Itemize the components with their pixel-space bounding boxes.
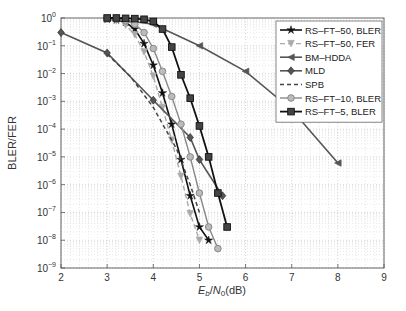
y-tick-label: 100 [41, 11, 56, 24]
x-tick-label: 7 [289, 272, 295, 283]
y-tick-label: 10−1 [37, 39, 56, 52]
x-tick-label: 3 [104, 272, 110, 283]
y-tick-label: 10−7 [37, 205, 56, 218]
x-tick-label: 6 [243, 272, 249, 283]
y-tick-label: 10−6 [37, 178, 56, 191]
x-tick-label: 8 [335, 272, 341, 283]
ber-chart: 2345678910010−110−210−310−410−510−610−71… [0, 0, 406, 311]
legend-label: RS–FT–5, BLER [305, 106, 376, 117]
legend-label: RS–FT–10, BLER [305, 93, 381, 104]
x-tick-label: 2 [58, 272, 64, 283]
y-tick-label: 10−5 [37, 150, 56, 163]
legend: RS–FT–50, BLERRS–FT–50, FERBM–HDDAMLDSPB… [276, 21, 382, 122]
x-tick-label: 4 [151, 272, 157, 283]
legend-label: BM–HDDA [305, 52, 352, 63]
legend-label: RS–FT–50, BLER [305, 25, 381, 36]
y-tick-label: 10−3 [37, 94, 56, 107]
y-tick-label: 10−8 [37, 233, 56, 246]
x-tick-label: 5 [197, 272, 203, 283]
x-tick-label: 9 [381, 272, 387, 283]
y-tick-label: 10−4 [37, 122, 56, 135]
y-axis-label: BLER/FER [6, 116, 18, 170]
x-axis-label: Eb/N0(dB) [198, 284, 246, 298]
legend-label: SPB [305, 79, 324, 90]
legend-label: RS–FT–50, FER [305, 38, 375, 49]
legend-label: MLD [305, 65, 325, 76]
y-tick-label: 10−9 [37, 261, 56, 274]
y-tick-label: 10−2 [37, 67, 56, 80]
